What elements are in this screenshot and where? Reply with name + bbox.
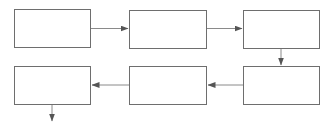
connector-arrows [0, 0, 332, 125]
